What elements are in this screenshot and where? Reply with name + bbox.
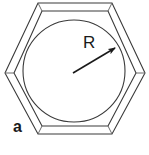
bevel-line-bottom-left [38,126,42,134]
subfigure-caption-label: a [13,119,22,135]
hexagon-figure: R a [0,0,149,155]
radius-label: R [83,34,95,51]
bevel-line-top-right [108,3,112,11]
bevel-line-top-left [38,3,42,11]
bevel-line-bottom-right [108,126,112,134]
inner-hexagon-outline [14,11,136,126]
bevel-edge-lines [5,3,145,134]
inscribed-circle [23,20,125,122]
outer-hexagon-outline [5,3,145,134]
hexagon-diagram-svg [0,0,149,155]
